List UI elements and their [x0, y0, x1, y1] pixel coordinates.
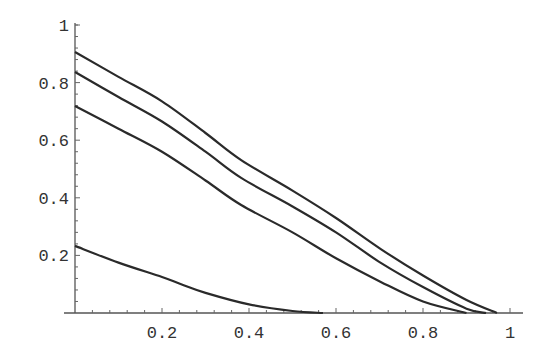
line-chart: 0.20.40.60.810.20.40.60.81 [0, 0, 547, 355]
y-tick-label: 0.4 [38, 190, 69, 209]
x-tick-label: 0.2 [147, 324, 178, 343]
x-tick-label: 0.4 [234, 324, 265, 343]
curve-4-line [75, 246, 323, 313]
y-tick-label: 0.2 [38, 247, 69, 266]
x-tick-label: 1 [505, 324, 515, 343]
curves [75, 52, 497, 313]
x-tick-label: 0.8 [408, 324, 439, 343]
curve-3-line [75, 106, 467, 313]
y-tick-label: 1 [59, 17, 69, 36]
axes: 0.20.40.60.810.20.40.60.81 [38, 17, 523, 343]
curve-1-line [75, 52, 497, 313]
y-tick-label: 0.8 [38, 75, 69, 94]
x-tick-label: 0.6 [321, 324, 352, 343]
y-tick-label: 0.6 [38, 132, 69, 151]
